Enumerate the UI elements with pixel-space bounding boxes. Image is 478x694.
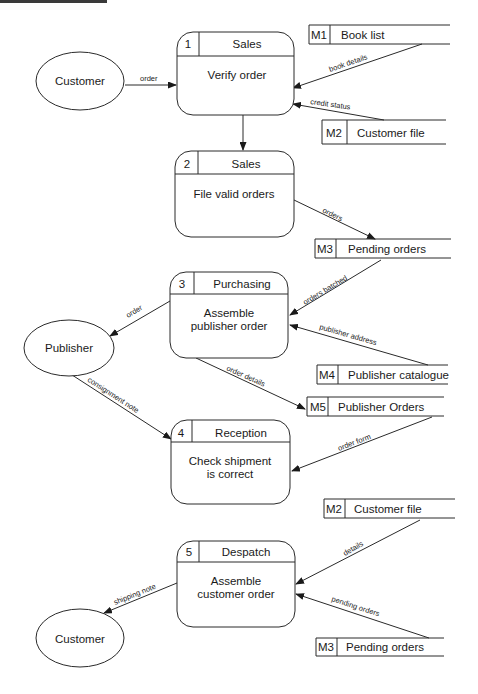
store-m1-book-list: M1 Book list <box>309 25 450 44</box>
svg-text:Sales: Sales <box>232 158 261 170</box>
svg-text:order details: order details <box>225 364 267 389</box>
flow-order-out: order <box>110 301 170 336</box>
store-m4-publisher-catalogue: M4 Publisher catalogue <box>317 365 449 384</box>
svg-text:book details: book details <box>328 52 369 74</box>
svg-text:is correct: is correct <box>207 468 254 480</box>
svg-text:Pending orders: Pending orders <box>348 243 426 255</box>
svg-text:M2: M2 <box>326 127 342 139</box>
flow-pending-orders: pending orders <box>296 594 429 638</box>
flow-details: details <box>296 520 420 584</box>
flow-credit-status: credit status <box>293 97 384 120</box>
svg-text:Customer file: Customer file <box>357 127 425 139</box>
store-m3-pending-orders-bottom: M3 Pending orders <box>316 638 444 656</box>
process-1-verify-order: 1 Sales Verify order <box>177 32 294 115</box>
svg-text:M3: M3 <box>318 641 334 653</box>
store-m2-customer-file-bottom: M2 Customer file <box>324 499 455 518</box>
svg-text:credit status: credit status <box>310 97 352 112</box>
svg-text:orders: orders <box>321 206 344 224</box>
flow-order-details: order details <box>196 358 305 409</box>
flow-publisher-address: publisher address <box>290 322 428 365</box>
process-4-check-shipment: 4 Reception Check shipment is correct <box>171 420 290 504</box>
svg-text:customer order: customer order <box>197 588 275 600</box>
svg-text:Publisher Orders: Publisher Orders <box>338 401 425 413</box>
svg-text:Verify order: Verify order <box>208 69 267 81</box>
svg-text:3: 3 <box>179 278 185 290</box>
svg-text:M3: M3 <box>317 243 333 255</box>
svg-text:M4: M4 <box>319 369 336 381</box>
process-3-assemble-publisher-order: 3 Purchasing Assemble publisher order <box>170 272 288 358</box>
svg-text:4: 4 <box>178 427 185 439</box>
svg-text:consignment note: consignment note <box>86 375 141 415</box>
data-flow-diagram: order book details credit status orders … <box>0 0 478 694</box>
svg-text:Assemble: Assemble <box>204 307 255 319</box>
store-m3-pending-orders: M3 Pending orders <box>315 239 451 258</box>
flow-consignment-note: consignment note <box>69 373 171 439</box>
svg-text:Customer file: Customer file <box>354 503 422 515</box>
svg-text:Sales: Sales <box>233 38 262 50</box>
svg-text:order: order <box>140 74 158 83</box>
svg-text:Customer: Customer <box>55 633 105 645</box>
svg-text:order form: order form <box>336 432 372 453</box>
flow-shipping-note: shipping note <box>104 582 177 613</box>
entity-customer-bottom: Customer <box>36 609 124 667</box>
svg-text:orders batched: orders batched <box>301 273 349 306</box>
svg-text:Assemble: Assemble <box>211 575 262 587</box>
svg-text:5: 5 <box>186 546 192 558</box>
flow-orders: orders <box>294 200 375 239</box>
svg-text:Book list: Book list <box>341 29 385 41</box>
flow-book-details: book details <box>293 44 422 88</box>
flow-orders-batched: orders batched <box>290 260 381 315</box>
store-m5-publisher-orders: M5 Publisher Orders <box>307 397 444 416</box>
flow-order-form: order form <box>292 417 432 471</box>
svg-text:M1: M1 <box>311 29 327 41</box>
svg-text:2: 2 <box>184 158 190 170</box>
svg-text:Reception: Reception <box>215 427 267 439</box>
svg-text:Publisher: Publisher <box>45 342 93 354</box>
svg-text:1: 1 <box>185 38 191 50</box>
svg-text:publisher address: publisher address <box>318 322 378 347</box>
svg-text:Despatch: Despatch <box>222 546 271 558</box>
svg-text:Publisher catalogue: Publisher catalogue <box>348 369 449 381</box>
store-m2-customer-file: M2 Customer file <box>322 120 446 144</box>
svg-text:publisher order: publisher order <box>191 320 268 332</box>
svg-text:M2: M2 <box>326 503 342 515</box>
flow-order-in: order <box>125 74 176 85</box>
entity-customer-top: Customer <box>36 52 124 110</box>
svg-text:Customer: Customer <box>55 75 105 87</box>
svg-text:Purchasing: Purchasing <box>213 278 271 290</box>
entity-publisher: Publisher <box>24 320 114 376</box>
svg-text:pending orders: pending orders <box>330 594 381 618</box>
svg-text:Check shipment: Check shipment <box>189 455 272 467</box>
svg-text:M5: M5 <box>310 401 326 413</box>
process-5-assemble-customer-order: 5 Despatch Assemble customer order <box>177 541 295 627</box>
svg-text:Pending orders: Pending orders <box>346 641 424 653</box>
process-2-file-valid-orders: 2 Sales File valid orders <box>175 151 294 237</box>
svg-text:File valid orders: File valid orders <box>193 188 274 200</box>
